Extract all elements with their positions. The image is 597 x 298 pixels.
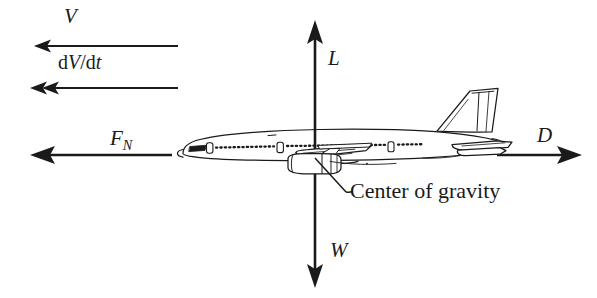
velocity-label: V xyxy=(64,6,77,27)
net-force-label-subscript: N xyxy=(123,137,133,153)
net-force-label-symbol: F xyxy=(110,126,123,150)
acceleration-label-v: V xyxy=(68,51,80,73)
aircraft-force-diagram: V dV/dt FN L W D Center of gravity xyxy=(0,0,597,298)
drag-vector xyxy=(497,146,582,164)
diagram-canvas xyxy=(0,0,597,298)
drag-label: D xyxy=(537,125,552,146)
acceleration-label-d: d xyxy=(58,51,68,73)
velocity-vector xyxy=(34,40,178,53)
acceleration-label-slash: /d xyxy=(80,51,96,73)
aft-door xyxy=(388,142,394,152)
mid-door xyxy=(277,142,283,152)
airplane-illustration xyxy=(178,88,513,173)
lift-label: L xyxy=(328,48,340,69)
net-force-label: FN xyxy=(110,128,132,152)
acceleration-label: dV/dt xyxy=(58,52,101,72)
fuselage-crease-fwd xyxy=(268,135,276,136)
weight-label: W xyxy=(330,240,348,261)
nose-tip xyxy=(178,150,184,158)
center-of-gravity-label: Center of gravity xyxy=(350,180,500,202)
cockpit-window xyxy=(189,145,206,151)
acceleration-label-t: t xyxy=(96,51,102,73)
belly-marker xyxy=(366,163,368,165)
acceleration-vector xyxy=(30,82,178,95)
engine-nacelle xyxy=(288,154,341,174)
forward-door xyxy=(207,143,213,153)
net-force-vector xyxy=(30,146,172,164)
